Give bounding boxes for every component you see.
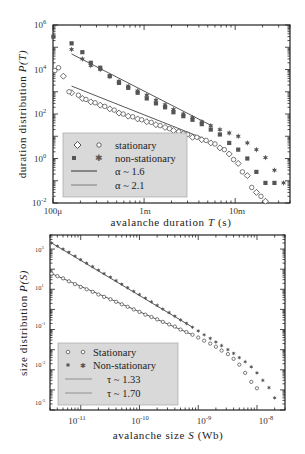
data-point: [249, 185, 254, 190]
y-tick-label: 102: [34, 107, 46, 119]
top-legend: stationary ✱ non-stationary α ~ 1.6 α ~ …: [63, 133, 187, 197]
x-tick-label: 10-10: [131, 414, 149, 426]
data-point: [138, 310, 141, 313]
data-point: [149, 120, 154, 125]
data-point: [85, 288, 88, 291]
data-point: [79, 285, 82, 288]
data-point: [112, 108, 117, 113]
data-point: [197, 336, 200, 339]
bottom-y-tick-labels: 103 101 10-1 10-3 10-5: [35, 245, 46, 406]
x-tick-label: 10-9: [197, 414, 211, 426]
duration-distribution-chart: 106 104 102 100 10-2 100μ 1m 10m avalanc…: [16, 18, 290, 229]
data-point: [50, 272, 53, 275]
data-point: [245, 156, 249, 160]
legend-label-tau-1-70: τ ~ 1.70: [107, 388, 141, 399]
open-circle-marker-icon: [97, 143, 101, 147]
data-point: [158, 123, 163, 128]
data-point: [191, 333, 194, 336]
data-point: [150, 315, 153, 318]
data-point: [220, 349, 223, 352]
data-point: [161, 320, 164, 323]
data-point: [240, 170, 245, 175]
data-point: [222, 147, 227, 152]
data-point: [259, 194, 264, 199]
x-tick-label: 10-11: [68, 414, 85, 426]
bottom-x-axis-label: avalanche size S (Wb): [113, 429, 224, 442]
data-point: [121, 112, 126, 117]
top-y-axis-label: duration distribution P(T): [16, 50, 29, 179]
data-point: [272, 181, 276, 185]
data-point: [76, 93, 81, 98]
data-point: [91, 290, 94, 293]
data-point: [218, 132, 222, 136]
data-point: [132, 308, 135, 311]
top-x-axis-label: avalanche duration T (s): [110, 216, 231, 229]
data-point: [93, 101, 98, 106]
y-tick-label: 10-5: [35, 398, 46, 406]
legend-label-alpha-1-6: α ~ 1.6: [115, 166, 145, 177]
filled-square-marker-icon: [72, 156, 76, 160]
filled-star-marker-icon: ✱: [95, 153, 103, 163]
legend-label-stationary: stationary: [115, 140, 157, 151]
y-tick-label: 10-3: [35, 360, 46, 368]
data-point: [254, 170, 258, 174]
y-tick-label: 101: [35, 283, 44, 291]
bottom-x-tick-labels: 10-11 10-10 10-9 10-8: [68, 414, 273, 426]
data-point: [209, 342, 212, 345]
legend-label-tau-1-33: τ ~ 1.33: [107, 374, 141, 385]
data-point: [204, 138, 209, 143]
data-point: [236, 148, 240, 152]
data-point: [139, 118, 144, 123]
data-point: [56, 275, 59, 278]
data-point: [109, 298, 112, 301]
top-x-tick-labels: 100μ 1m 10m: [44, 206, 245, 216]
open-circle-marker-icon: [66, 350, 70, 354]
data-point: [120, 303, 123, 306]
x-tick-label: 100μ: [44, 206, 63, 216]
data-point: [179, 328, 182, 331]
y-tick-label: 106: [34, 18, 47, 30]
data-point: [226, 352, 229, 355]
data-point: [244, 371, 247, 374]
data-point: [114, 300, 117, 303]
data-point: [56, 65, 61, 70]
y-tick-label: 104: [34, 63, 47, 75]
data-point: [195, 135, 200, 140]
data-point: [69, 41, 73, 45]
bottom-y-axis-label: size distribution P(S): [17, 270, 30, 376]
data-point: [156, 318, 159, 321]
data-point: [126, 305, 129, 308]
data-point: [173, 325, 176, 328]
filled-square-marker-icon: [67, 364, 70, 367]
data-point: [167, 126, 172, 131]
x-tick-label: 10m: [229, 206, 245, 216]
y-tick-label: 10-1: [35, 321, 45, 329]
data-point: [67, 90, 72, 95]
data-point: [185, 330, 188, 333]
size-distribution-chart: 103 101 10-1 10-3 10-5 10-11 10-10 10-9 …: [17, 235, 285, 442]
data-point: [238, 363, 241, 366]
data-point: [97, 293, 100, 296]
legend-label-stationary: Stationary: [93, 347, 137, 358]
data-point: [67, 280, 70, 283]
data-point: [103, 104, 108, 109]
data-point: [167, 323, 170, 326]
data-point: [213, 142, 218, 147]
data-point: [51, 35, 55, 39]
data-point: [84, 97, 89, 102]
legend-label-non-stationary: non-stationary: [115, 153, 176, 164]
top-y-tick-labels: 106 104 102 100 10-2: [32, 18, 47, 208]
data-point: [102, 295, 105, 298]
data-point: [231, 157, 236, 162]
filled-star-marker-icon: ✱: [80, 362, 86, 370]
data-point: [61, 277, 64, 280]
data-point: [214, 345, 217, 348]
data-point: [263, 181, 267, 185]
data-point: [80, 50, 84, 54]
bottom-legend: Stationary ✱ Non-stationary τ ~ 1.33 τ ~…: [58, 343, 178, 405]
legend-label-alpha-2-1: α ~ 2.1: [115, 180, 145, 191]
x-tick-label: 1m: [139, 206, 151, 216]
legend-label-non-stationary: Non-stationary: [93, 360, 157, 371]
y-tick-label: 100: [34, 152, 46, 164]
y-tick-label: 103: [35, 245, 45, 253]
